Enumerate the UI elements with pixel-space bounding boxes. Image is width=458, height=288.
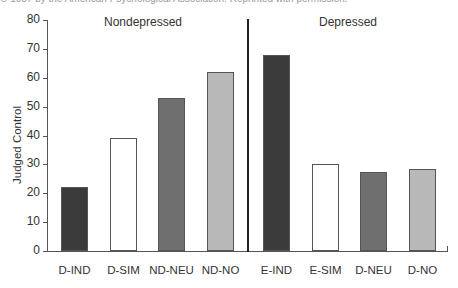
y-tick	[43, 49, 48, 50]
y-tick	[43, 78, 48, 79]
x-tick-label: D-NEU	[355, 264, 391, 276]
x-tick-label: D-IND	[59, 264, 91, 276]
x-tick-label: D-NO	[408, 264, 437, 276]
y-tick	[43, 193, 48, 194]
y-tick-label: 30	[12, 157, 40, 171]
y-tick	[43, 136, 48, 137]
bar-d-sim	[110, 138, 137, 251]
y-tick-label: 50	[12, 99, 40, 113]
bar-nd-no	[207, 72, 234, 251]
bar-nd-neu	[158, 98, 185, 251]
y-axis-label: Judged Control	[11, 106, 23, 184]
y-tick-label: 70	[12, 41, 40, 55]
y-tick	[43, 164, 48, 165]
bar-e-sim	[312, 164, 339, 251]
y-tick	[43, 222, 48, 223]
group-label-depressed: Depressed	[319, 15, 377, 29]
y-tick-label: 0	[12, 243, 40, 257]
y-tick	[43, 251, 48, 252]
y-tick-label: 20	[12, 186, 40, 200]
x-tick-label: E-SIM	[310, 264, 342, 276]
group-label-nondepressed: Nondepressed	[104, 15, 182, 29]
x-tick-label: ND-NO	[202, 264, 240, 276]
figure-caption: © 1987 by the American Psychological Ass…	[0, 0, 458, 4]
bar-d-ind	[61, 187, 88, 251]
y-tick	[43, 20, 48, 21]
bar-e-ind	[263, 55, 290, 251]
bar-d-no	[409, 169, 436, 251]
x-axis-end-tick	[447, 246, 448, 252]
bar-d-neu	[360, 172, 387, 251]
y-tick-label: 80	[12, 12, 40, 26]
group-divider	[247, 19, 249, 252]
x-tick-label: E-IND	[261, 264, 292, 276]
x-tick-label: D-SIM	[107, 264, 140, 276]
y-tick	[43, 107, 48, 108]
y-tick-label: 60	[12, 70, 40, 84]
y-tick-label: 10	[12, 214, 40, 228]
x-tick-label: ND-NEU	[149, 264, 194, 276]
y-tick-label: 40	[12, 128, 40, 142]
